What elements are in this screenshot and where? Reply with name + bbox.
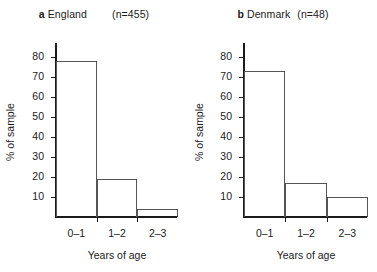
y-tick-label-england-70: 70: [32, 70, 44, 83]
y-tick-label-england-60: 60: [32, 90, 44, 103]
y-tick-label-denmark-30: 30: [220, 150, 232, 163]
panel-title-text-england: England: [48, 8, 87, 20]
x-tick-label-denmark-2: 2–3: [339, 227, 357, 239]
y-tick-label-england-50: 50: [32, 110, 44, 123]
bar-denmark-2-3: [327, 197, 368, 217]
y-tick-label-england-20: 20: [32, 170, 44, 183]
chart-panel-denmark: b Denmark (n=48) % of sample Years of ag…: [189, 0, 377, 272]
bar-england-0-1: [56, 61, 97, 217]
y-tick-label-denmark-10: 10: [220, 190, 232, 203]
bar-denmark-1-2: [285, 183, 326, 217]
y-axis-title-denmark: % of sample: [193, 103, 205, 161]
x-tick-label-denmark-0: 0–1: [256, 227, 274, 239]
x-tick-label-england-0: 0–1: [68, 227, 86, 239]
y-tick-label-denmark-20: 20: [220, 170, 232, 183]
panel-title-denmark: b Denmark (n=48): [189, 8, 377, 20]
panel-tag-b: b: [237, 8, 244, 20]
y-tick-label-denmark-70: 70: [220, 70, 232, 83]
figure: a England (n=455) % of sample Years of a…: [0, 0, 377, 272]
bar-england-1-2: [97, 179, 138, 217]
y-tick-england-80: 80: [51, 57, 56, 58]
x-tick-label-denmark-1: 1–2: [297, 227, 315, 239]
y-tick-label-denmark-60: 60: [220, 90, 232, 103]
panel-title-england: a England (n=455): [0, 8, 188, 20]
x-tick-label-england-1: 1–2: [108, 227, 126, 239]
panel-title-text-denmark: Denmark: [247, 8, 290, 20]
x-tick-england-2: [137, 217, 138, 222]
chart-panel-england: a England (n=455) % of sample Years of a…: [0, 0, 188, 272]
x-axis-title-england: Years of age: [56, 249, 178, 261]
y-tick-label-denmark-50: 50: [220, 110, 232, 123]
y-tick-label-denmark-80: 80: [220, 50, 232, 63]
x-tick-denmark-1: [285, 217, 286, 222]
y-tick-label-denmark-40: 40: [220, 130, 232, 143]
y-axis-title-england: % of sample: [4, 103, 16, 161]
plot-area-denmark: % of sample Years of age 102030405060708…: [244, 47, 368, 217]
bar-denmark-0-1: [244, 71, 285, 217]
bar-england-2-3: [137, 209, 178, 217]
panel-tag-a: a: [39, 8, 45, 20]
y-tick-label-england-30: 30: [32, 150, 44, 163]
y-tick-denmark-80: 80: [239, 57, 244, 58]
plot-area-england: % of sample Years of age 102030405060708…: [56, 47, 178, 217]
panel-sample-size-denmark: (n=48): [297, 8, 328, 20]
panel-sample-size-england: (n=455): [112, 8, 149, 20]
y-tick-label-england-80: 80: [32, 50, 44, 63]
x-tick-label-england-2: 2–3: [149, 227, 167, 239]
y-tick-label-england-10: 10: [32, 190, 44, 203]
x-axis-title-denmark: Years of age: [244, 249, 368, 261]
x-tick-england-1: [97, 217, 98, 222]
y-tick-label-england-40: 40: [32, 130, 44, 143]
x-tick-denmark-2: [327, 217, 328, 222]
